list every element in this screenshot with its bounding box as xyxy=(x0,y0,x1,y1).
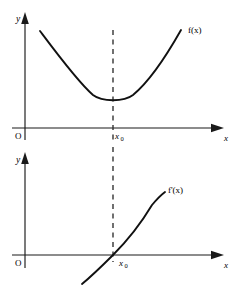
math-figure-canvas: y x O f(x) x 0 y x O f'(x) xyxy=(0,0,240,295)
bottom-y-axis-label: y xyxy=(15,155,21,165)
bottom-x0-subscript: 0 xyxy=(125,262,128,269)
function-plot: y x O f(x) x 0 xyxy=(12,12,228,143)
top-x-axis-label: x xyxy=(223,133,228,143)
top-x0-subscript: 0 xyxy=(121,135,124,142)
top-curve-fx xyxy=(40,30,181,100)
bottom-curve-fprime xyxy=(82,192,165,284)
bottom-origin-label: O xyxy=(15,258,22,268)
bottom-x-axis-arrowhead xyxy=(211,251,224,259)
bottom-x0-tick-label: x 0 xyxy=(118,258,128,269)
bottom-x0-base: x xyxy=(118,258,123,268)
top-y-axis-arrowhead xyxy=(21,12,29,24)
figure-root: y x O f(x) x 0 y x O f'(x) xyxy=(0,0,240,295)
top-x0-tick-label: x 0 xyxy=(114,131,124,142)
bottom-y-axis-arrowhead xyxy=(21,152,29,164)
derivative-plot: y x O f'(x) x 0 xyxy=(12,147,228,284)
top-curve-label: f(x) xyxy=(188,25,202,35)
top-x0-base: x xyxy=(114,131,119,141)
top-x-axis-arrowhead xyxy=(211,124,224,132)
top-y-axis-label: y xyxy=(15,14,21,24)
top-origin-label: O xyxy=(15,131,22,141)
bottom-x-axis-label: x xyxy=(223,260,228,270)
bottom-curve-label: f'(x) xyxy=(168,185,183,195)
